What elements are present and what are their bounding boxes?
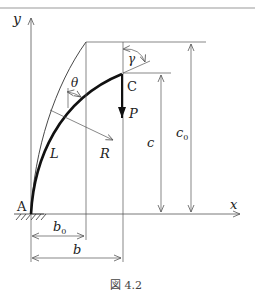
y-axis-label: y	[12, 11, 22, 27]
height-initial-label-c0: c0	[176, 125, 188, 142]
gamma-label: γ	[128, 52, 136, 66]
diagram: y x A C θ γ P L R c c0 b0 b 図 4.2	[0, 0, 255, 297]
x-axis-label: x	[230, 197, 238, 212]
force-label-p: P	[128, 106, 138, 121]
theta-arc	[68, 92, 81, 97]
width-initial-label-b0: b0	[53, 219, 66, 236]
deformed-beam-curve	[31, 74, 122, 214]
figure-caption: 図 4.2	[110, 279, 142, 292]
theta-label: θ	[71, 76, 79, 90]
tip-label-c: C	[127, 79, 137, 94]
height-label-c: c	[147, 135, 155, 150]
length-label-l: L	[49, 146, 59, 161]
origin-label-a: A	[16, 199, 27, 214]
width-label-b: b	[73, 242, 81, 257]
radius-label-r: R	[99, 146, 110, 161]
fixed-support-hatch	[14, 214, 46, 220]
initial-beam-curve	[31, 42, 86, 214]
